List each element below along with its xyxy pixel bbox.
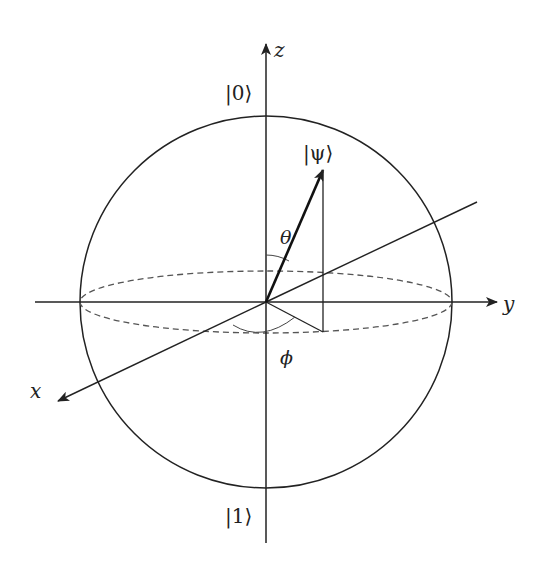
z-axis-label: z — [273, 38, 285, 62]
theta-label: θ — [280, 226, 292, 248]
x-axis — [58, 302, 266, 401]
x-axis-label: x — [30, 379, 41, 403]
y-axis-label: y — [502, 292, 515, 316]
state-one-label: |1⟩ — [225, 504, 252, 529]
phi-arc — [233, 317, 295, 332]
psi-vector — [266, 170, 323, 302]
state-psi-label: |ψ⟩ — [303, 141, 333, 166]
phi-label: ϕ — [280, 346, 293, 368]
state-zero-label: |0⟩ — [225, 81, 252, 106]
bloch-sphere-diagram: z y x |0⟩ |1⟩ |ψ⟩ θ ϕ — [0, 0, 541, 572]
